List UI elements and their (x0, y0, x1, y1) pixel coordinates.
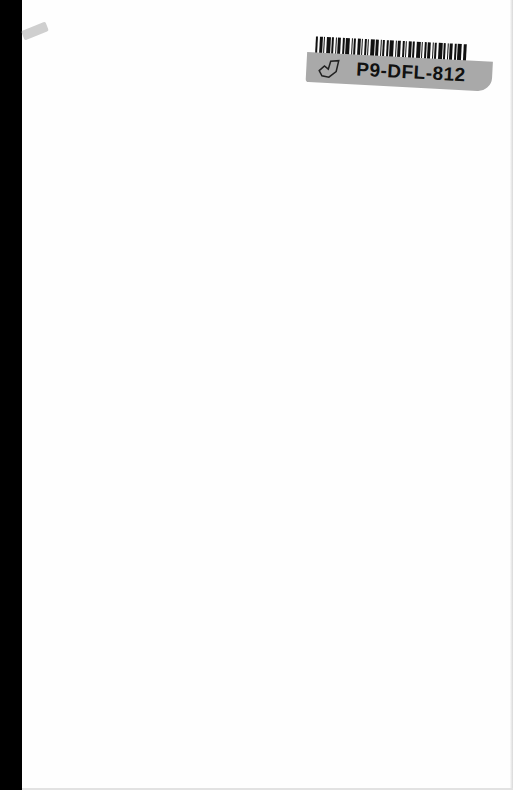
sticker-code: P9-DFL-812 (356, 59, 467, 87)
book-outline-icon (316, 56, 343, 79)
library-barcode-sticker: P9-DFL-812 (305, 36, 493, 98)
page-tab-marker (21, 21, 49, 40)
blank-book-page: P9-DFL-812 (22, 0, 513, 790)
